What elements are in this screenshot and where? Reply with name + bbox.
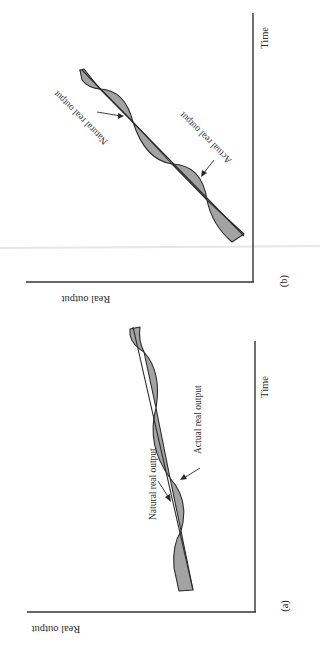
panel-a-actual-output-arrow [184,468,200,478]
panel-b-actual-arrowhead-icon [201,170,207,177]
panel-b-time-label: Time [259,27,270,49]
panel-b-actual-output-label: Actual real output [178,110,234,166]
panel-a-natural-output-label: Natural real output [148,448,158,520]
panel-a-panel-label: (a) [279,600,291,612]
panel-b-natural-output-label: Natural real output [51,89,109,147]
panel-b-real-output-label: Real output [62,294,111,305]
panel-a-natural-arrowhead-icon [165,494,171,502]
panel-a-time-label: Time [259,376,270,398]
figure-canvas: Natural real output Actual real output T… [0,0,320,653]
panel-b-panel-label: (b) [278,274,290,287]
panel-a-real-output-label: Real output [32,624,81,635]
page-fold [0,246,320,248]
panel-a-natural-output-arrow [158,481,169,498]
panel-a-natural-output-line [133,327,193,590]
panel-a: Natural real output Actual real output T… [27,327,291,635]
panel-a-actual-output-label: Actual real output [193,385,203,454]
panel-b-natural-output-arrow [97,112,121,116]
panel-b-natural-arrowhead-icon [118,113,124,119]
panel-a-gap-band [130,327,193,591]
panel-b: Natural real output Actual real output T… [26,13,290,305]
